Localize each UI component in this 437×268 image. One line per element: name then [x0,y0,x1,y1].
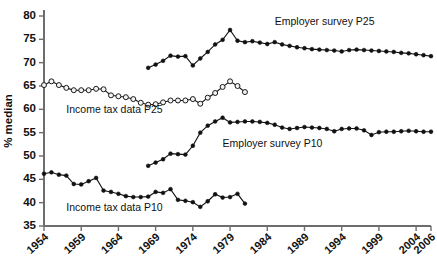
data-point [295,45,299,49]
data-point [123,95,128,100]
data-point [213,192,217,196]
data-point [228,28,232,32]
data-point [377,130,381,134]
data-point [184,199,188,203]
data-point [71,88,76,93]
data-point [303,125,307,129]
data-point [42,172,46,176]
data-point [184,153,188,157]
series-label-1: Income tax data P10 [66,201,162,213]
data-point [42,83,47,88]
data-point [169,152,173,156]
data-point [295,126,299,130]
data-point [206,199,210,203]
data-point [392,50,396,54]
data-point [139,195,143,199]
data-point [175,98,180,103]
data-point [325,127,329,131]
axes-layer [39,10,431,231]
data-point [101,87,106,92]
data-point [429,54,433,58]
data-point [206,124,210,128]
x-tick-label: 1984 [247,230,274,256]
data-point [72,182,76,186]
data-point [169,187,173,191]
series-2 [146,28,433,70]
data-point [191,144,195,148]
data-point [317,48,321,52]
data-point [109,190,113,194]
data-point [117,192,121,196]
data-point [355,127,359,131]
data-point [64,85,69,90]
series-label-3: Employer survey P10 [223,137,323,149]
data-point [154,161,158,165]
data-point [116,94,121,99]
data-point [243,40,247,44]
x-tick-label: 1979 [210,231,236,256]
data-point [273,40,277,44]
data-point [355,48,359,52]
y-tick-label: 35 [23,219,36,231]
x-tick-label: 1999 [359,231,385,256]
data-point [191,64,195,68]
data-point [407,51,411,55]
data-point [377,49,381,53]
data-point [228,195,232,199]
data-point [280,126,284,130]
data-point [176,55,180,59]
data-point [288,127,292,131]
x-tick-label: 1994 [322,230,349,256]
data-point [332,129,336,133]
data-point [288,44,292,48]
data-point [242,90,247,95]
y-tick-label: 80 [23,9,36,21]
data-point [198,101,203,106]
data-point [213,43,217,47]
data-point [243,202,247,206]
series-label-0: Income tax data P25 [66,103,162,115]
data-point [310,47,314,51]
series-line [148,30,431,68]
x-axis-tick-labels: 1954195919641969197419791984198919941999… [24,230,437,256]
series-layer [42,28,433,209]
y-tick-label: 45 [23,172,36,184]
data-point [87,179,91,183]
data-point [228,79,233,84]
data-point [168,98,173,103]
data-point [221,116,225,120]
chart-container: 35404550556065707580 1954195919641969197… [0,0,437,268]
data-point [124,194,128,198]
data-point [258,120,262,124]
data-point [198,131,202,135]
data-point [221,196,225,200]
y-tick-label: 55 [23,126,36,138]
data-point [384,130,388,134]
data-point [198,205,202,209]
x-tick-label: 1964 [99,230,126,256]
data-point [399,51,403,55]
data-point [131,97,136,102]
data-point [206,50,210,54]
data-point [221,38,225,42]
data-point [310,126,314,130]
data-point [422,130,426,134]
series-label-2: Employer survey P25 [275,15,375,27]
data-point [191,200,195,204]
data-point [236,120,240,124]
data-point [176,198,180,202]
y-tick-label: 40 [23,196,36,208]
x-tick-label: 1969 [136,231,162,256]
data-point [108,93,113,98]
data-point [49,79,54,84]
data-point [236,39,240,43]
data-point [64,174,68,178]
data-point [228,121,232,125]
data-point [399,129,403,133]
data-point [370,49,374,53]
y-tick-label: 65 [23,79,36,91]
data-point [79,183,83,187]
data-point [94,176,98,180]
data-point [146,66,150,70]
data-point [220,84,225,89]
